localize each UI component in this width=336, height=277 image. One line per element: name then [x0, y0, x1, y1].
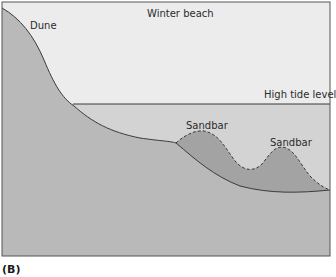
high-tide-label: High tide level: [264, 90, 336, 100]
title-label: Winter beach: [147, 9, 214, 19]
panel-label: (B): [2, 264, 20, 275]
sandbar-label-1: Sandbar: [186, 121, 228, 131]
sandbar-label-2: Sandbar: [270, 138, 312, 148]
dune-label: Dune: [30, 21, 57, 31]
